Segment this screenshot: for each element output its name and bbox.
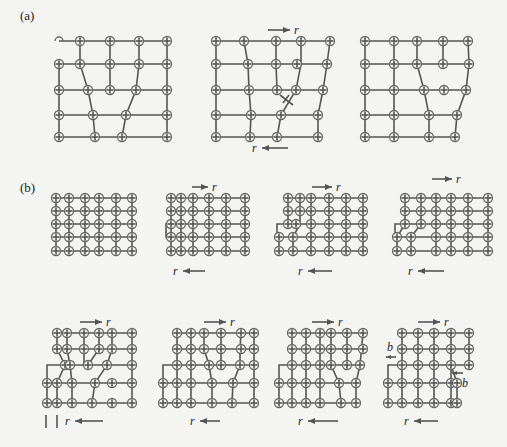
diagram-b2: rr xyxy=(166,180,250,278)
force-arrow-label: r xyxy=(408,264,413,278)
burgers-vector-label-left: b xyxy=(387,340,393,354)
force-arrow-label: r xyxy=(404,414,409,428)
force-arrow-label: r xyxy=(298,264,303,278)
force-arrow-label: r xyxy=(173,264,178,278)
diagram-a1 xyxy=(55,37,172,142)
diagram-a2: rr xyxy=(212,23,335,155)
lattice-diagrams: rrrrrrrrrrrrrrrrbb xyxy=(0,0,507,447)
force-arrow-label: r xyxy=(230,315,235,329)
burgers-vector-label-right: b xyxy=(462,376,468,390)
diagram-b4: rr xyxy=(393,172,493,278)
force-arrow-label: r xyxy=(190,414,195,428)
force-arrow-label: r xyxy=(106,315,111,329)
diagram-b5: rr xyxy=(43,315,137,428)
force-arrow-label: r xyxy=(298,414,303,428)
force-arrow-label: r xyxy=(336,180,341,194)
dislocation-figure: (a) (b) rrrrrrrrrrrrrrrrbb xyxy=(0,0,507,447)
diagram-a3 xyxy=(361,37,474,142)
force-arrow-label: r xyxy=(338,315,343,329)
diagram-b7: rr xyxy=(275,315,368,428)
force-arrow-label: r xyxy=(252,141,257,155)
force-arrow-label: r xyxy=(294,23,299,37)
diagram-b3: rr xyxy=(275,180,368,278)
force-arrow-label: r xyxy=(456,172,461,186)
force-arrow-label: r xyxy=(212,180,217,194)
diagram-b1 xyxy=(52,194,137,256)
diagram-b8: rrbb xyxy=(384,315,474,428)
force-arrow-label: r xyxy=(65,414,70,428)
force-arrow-label: r xyxy=(444,315,449,329)
diagram-b6: rr xyxy=(159,315,259,428)
